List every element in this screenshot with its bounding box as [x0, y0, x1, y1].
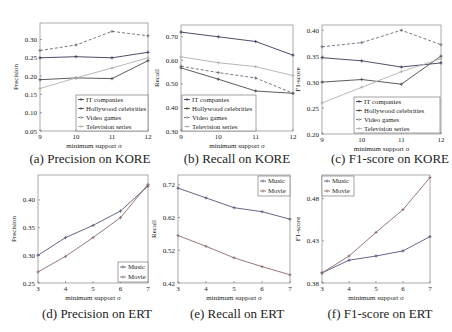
x-tick-label: 9	[179, 133, 183, 141]
legend-entry: IT companies	[86, 96, 123, 103]
legend-entry: Television series	[364, 125, 410, 132]
chart-b: 0.300.400.500.600.709101112minimum suppo…	[153, 25, 297, 150]
caption-f: (f) F1-score on ERT	[305, 306, 452, 322]
y-tick-label: 0.52	[163, 247, 176, 255]
y-tick-label: 0.48	[307, 195, 320, 203]
x-tick-label: 6	[260, 285, 264, 293]
caption-e: (e) Recall on ERT	[162, 306, 312, 322]
x-axis-label: minimum support σ	[66, 142, 122, 150]
legend: MusicMovie	[322, 176, 354, 196]
legend-entry: Video games	[86, 114, 122, 121]
x-tick-label: 9	[38, 133, 42, 141]
caption-d: (d) Precision on ERT	[22, 306, 172, 322]
x-tick-label: 3	[36, 285, 40, 293]
x-tick-label: 12	[438, 136, 446, 144]
y-tick-label: 0.30	[25, 36, 38, 44]
y-tick-label: 0.30	[166, 128, 179, 136]
chart-a: 0.050.100.150.200.250.309101112minimum s…	[12, 23, 152, 150]
x-tick-label: 9	[320, 136, 324, 144]
y-tick-label: 0.60	[166, 57, 179, 65]
legend-entry: Television series	[192, 123, 238, 130]
y-tick-label: 0.30	[307, 79, 320, 87]
legend-entry: Hollywood celebrities	[192, 105, 253, 112]
y-tick-label: 0.72	[163, 181, 176, 189]
legend: MusicMovie	[118, 262, 148, 282]
y-tick-label: 0.25	[307, 105, 320, 113]
legend-entry: Video games	[364, 116, 400, 123]
legend-entry: IT companies	[364, 98, 401, 105]
y-tick-label: 0.30	[23, 252, 36, 260]
caption-a: (a) Precision on KORE	[15, 151, 165, 167]
y-tick-label: 0.50	[166, 80, 179, 88]
legend: MusicMovie	[258, 176, 290, 196]
y-tick-label: 0.20	[307, 131, 320, 139]
y-tick-label: 0.35	[23, 224, 36, 232]
y-tick-label: 0.15	[25, 91, 38, 99]
legend-entry: Music	[268, 177, 285, 184]
legend-entry: Movie	[128, 273, 146, 280]
x-tick-label: 3	[320, 285, 324, 293]
x-axis-label: minimum support σ	[206, 294, 262, 302]
y-tick-label: 0.10	[25, 109, 38, 117]
legend-entry: Video games	[192, 114, 228, 121]
x-tick-label: 7	[146, 285, 150, 293]
y-tick-label: 0.25	[25, 54, 38, 62]
y-tick-label: 0.35	[307, 53, 320, 61]
caption-c: (c) F1-score on KORE	[315, 151, 452, 167]
legend-entry: Movie	[268, 187, 286, 194]
y-tick-label: 0.42	[163, 280, 176, 288]
x-tick-label: 11	[252, 133, 259, 141]
x-tick-label: 6	[401, 285, 405, 293]
x-tick-label: 4	[347, 285, 351, 293]
y-axis-label: Precision	[10, 215, 18, 242]
y-tick-label: 0.38	[307, 280, 320, 288]
legend-entry: Music	[332, 177, 349, 184]
legend-entry: Hollywood celebrities	[364, 107, 425, 114]
y-tick-label: 0.20	[25, 73, 38, 81]
chart-f: 0.380.430.4834567minimum support σF1-sco…	[294, 175, 432, 302]
y-axis-label: F1-score	[294, 217, 302, 242]
x-tick-label: 12	[145, 133, 153, 141]
y-axis-label: Recall	[153, 69, 161, 87]
caption-b: (b) Recall on KORE	[162, 151, 312, 167]
x-tick-label: 11	[398, 136, 405, 144]
y-tick-label: 0.40	[307, 27, 320, 35]
legend-entry: Music	[128, 263, 145, 270]
legend-entry: Hollywood celebrities	[86, 105, 147, 112]
x-tick-label: 4	[204, 285, 208, 293]
x-axis-label: minimum support σ	[65, 294, 121, 302]
x-tick-label: 7	[288, 285, 292, 293]
x-axis-label: minimum support σ	[209, 142, 265, 150]
legend: IT companiesHollywood celebritiesVideo g…	[182, 95, 256, 131]
x-tick-label: 10	[73, 133, 81, 141]
y-tick-label: 0.43	[307, 237, 320, 245]
y-tick-label: 0.40	[23, 196, 36, 204]
legend: IT companiesHollywood celebritiesVideo g…	[76, 95, 148, 131]
chart-e: 0.420.520.620.7234567minimum support σRe…	[150, 175, 292, 302]
y-tick-label: 0.62	[163, 214, 176, 222]
y-tick-label: 0.25	[23, 280, 36, 288]
y-tick-label: 0.05	[25, 128, 38, 136]
y-axis-label: Precision	[12, 63, 20, 90]
x-tick-label: 4	[64, 285, 68, 293]
y-tick-label: 0.40	[166, 104, 179, 112]
figure-grid: 0.050.100.150.200.250.309101112minimum s…	[0, 0, 452, 332]
x-tick-label: 12	[290, 133, 298, 141]
y-axis-label: Recall	[150, 220, 158, 238]
x-tick-label: 10	[215, 133, 223, 141]
x-tick-label: 6	[119, 285, 123, 293]
legend-entry: IT companies	[192, 96, 229, 103]
x-tick-label: 5	[91, 285, 95, 293]
y-axis-label: F1-score	[294, 67, 302, 92]
legend-entry: Movie	[332, 187, 350, 194]
legend-entry: Television series	[86, 123, 132, 130]
legend: IT companiesHollywood celebritiesVideo g…	[354, 97, 440, 133]
x-tick-label: 11	[109, 133, 116, 141]
x-tick-label: 7	[428, 285, 432, 293]
x-tick-label: 10	[358, 136, 366, 144]
chart-c: 0.200.250.300.350.409101112minimum suppo…	[294, 25, 445, 153]
x-axis-label: minimum support σ	[348, 294, 404, 302]
chart-d: 0.250.300.350.4034567minimum support σPr…	[10, 175, 150, 302]
y-tick-label: 0.70	[166, 33, 179, 41]
x-tick-label: 3	[176, 285, 180, 293]
